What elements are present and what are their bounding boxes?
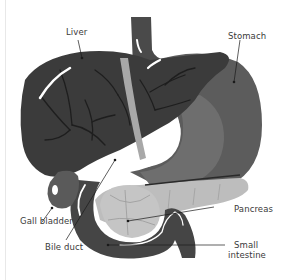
label-liver: Liver (66, 27, 87, 37)
label-small-intestine-line2: intestine (228, 250, 266, 260)
label-stomach: Stomach (228, 31, 266, 41)
label-pancreas: Pancreas (234, 204, 273, 214)
label-bile-duct: Bile duct (45, 242, 83, 252)
digestive-organs-illustration (0, 0, 283, 280)
label-gall-bladder: Gall bladder (20, 216, 73, 226)
label-small-intestine-line1: Small (234, 240, 258, 250)
